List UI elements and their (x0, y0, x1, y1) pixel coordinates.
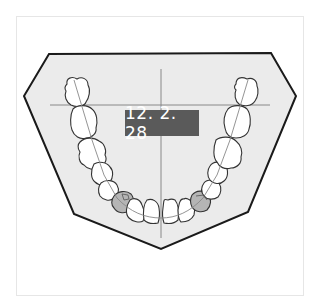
tooth-left-central-incisor (143, 199, 159, 223)
tooth-right-central-incisor (163, 199, 179, 223)
tooth-right-first-molar (214, 137, 242, 169)
date-label: 12. 2. 28 (125, 110, 199, 136)
tooth-right-second-molar (224, 106, 250, 138)
dental-arch-diagram (0, 0, 321, 307)
tooth-right-third-molar (235, 78, 259, 106)
tooth-left-second-molar (71, 106, 97, 139)
